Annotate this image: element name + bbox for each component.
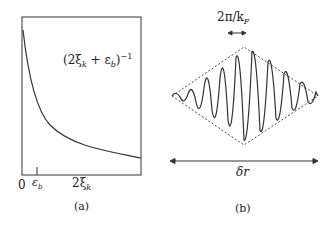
label-plus: + ε (87, 53, 111, 67)
width-arrow (170, 159, 318, 164)
label-exp: −1 (121, 52, 133, 61)
wavelength-arrow (228, 31, 246, 35)
tick-xi: 2ξk (72, 176, 91, 192)
wavelength-label: 2π/kF (217, 10, 249, 26)
envelope (172, 47, 318, 145)
wavelength-sub: F (244, 17, 250, 26)
tick-xi-sub: k (86, 183, 91, 192)
figure-canvas (0, 0, 336, 228)
width-label: δr (236, 165, 249, 179)
wavelength-main: 2π/k (217, 10, 244, 24)
plot-frame (22, 17, 141, 175)
tick-eps-sub: b (38, 183, 42, 191)
tick-zero: 0 (18, 178, 26, 192)
decay-curve (23, 30, 141, 158)
wave-packet (172, 51, 318, 140)
tick-xi-main: 2ξ (72, 176, 86, 190)
label-open: (2ξ (63, 53, 82, 67)
curve-label: (2ξk + εb)−1 (63, 52, 132, 69)
caption-b: (b) (235, 202, 251, 215)
tick-eps: εb (32, 176, 42, 191)
caption-a: (a) (74, 200, 89, 213)
